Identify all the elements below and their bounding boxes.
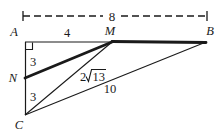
segments-group [25,42,206,116]
vertex-label-C: C [15,118,24,132]
label-NC: 3 [30,90,36,104]
segment-C-B [25,42,206,115]
vertex-label-A: A [9,25,18,39]
measure-labels-group: 4 3 3 10 [30,26,116,104]
right-angle-marker-at-A [26,43,33,50]
vertex-labels-group: A M B N C [8,24,214,132]
label-CM-radical-group: 2 13 [80,70,106,85]
label-CB: 10 [104,82,117,96]
label-CM-coefficient: 2 [80,70,86,84]
vertex-label-B: B [206,24,214,38]
geometry-canvas: 8 A M B N C [0,0,223,135]
vertex-label-M: M [104,24,116,38]
dimension-label-8: 8 [109,9,116,24]
geometry-diagram: 8 A M B N C [0,0,223,135]
label-AM: 4 [64,26,71,40]
vertex-label-N: N [8,71,18,85]
label-AN: 3 [30,55,36,69]
dimension-line-group: 8 [23,9,207,24]
segment-M-B [112,42,206,43]
label-CM-radicand: 13 [93,70,106,84]
